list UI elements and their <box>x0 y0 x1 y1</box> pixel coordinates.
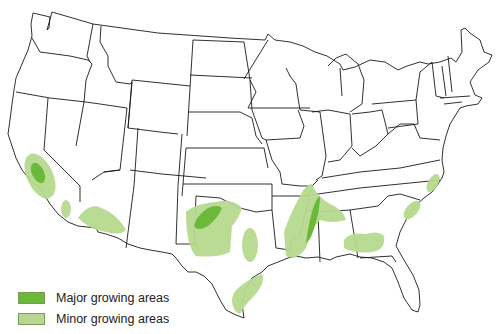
legend-label-minor: Minor growing areas <box>56 312 169 326</box>
minor-swatch-icon <box>18 313 45 325</box>
legend-item-minor: Minor growing areas <box>18 308 169 329</box>
map-legend: Major growing areas Minor growing areas <box>18 287 169 329</box>
legend-item-major: Major growing areas <box>18 287 169 308</box>
us-map <box>0 0 504 334</box>
legend-label-major: Major growing areas <box>56 291 169 305</box>
major-swatch-icon <box>18 292 45 304</box>
